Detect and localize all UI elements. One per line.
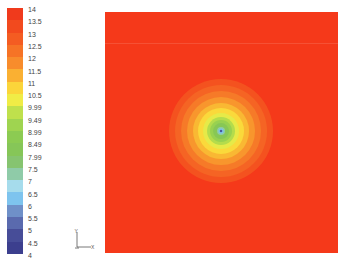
- colorbar-tick-label: 7.99: [28, 154, 42, 162]
- axis-y-label: Y: [75, 228, 79, 234]
- colorbar-tick-label: 6: [28, 203, 32, 211]
- colorbar-swatch: [7, 57, 23, 69]
- colorbar-tick-label: 5.5: [28, 215, 38, 223]
- colorbar-tick-label: 4.5: [28, 240, 38, 248]
- colorbar-swatch: [7, 205, 23, 217]
- colorbar-swatch: [7, 69, 23, 81]
- colorbar-tick-label: 6.5: [28, 191, 38, 199]
- contour-rings: [105, 12, 338, 253]
- colorbar-swatch: [7, 229, 23, 241]
- colorbar-swatch: [7, 180, 23, 192]
- colorbar-swatch: [7, 45, 23, 57]
- colorbar-tick-label: 4: [28, 252, 32, 260]
- colorbar-swatch: [7, 168, 23, 180]
- colorbar-labels: 1413.51312.51211.51110.59.999.498.998.49…: [28, 0, 68, 266]
- axes-triad-icon: Y X: [72, 228, 96, 252]
- colorbar-swatch: [7, 33, 23, 45]
- colorbar-tick-label: 11.5: [28, 68, 41, 76]
- colorbar-swatch: [7, 192, 23, 204]
- colorbar-tick-label: 14: [28, 6, 36, 14]
- colorbar-swatch: [7, 119, 23, 131]
- colorbar-swatch: [7, 94, 23, 106]
- colorbar-tick-label: 11: [28, 80, 35, 88]
- colorbar-swatch: [7, 156, 23, 168]
- colorbar-tick-label: 10.5: [28, 92, 42, 100]
- colorbar-tick-label: 8.49: [28, 141, 42, 149]
- colorbar-tick-label: 7.5: [28, 166, 38, 174]
- colorbar-swatch: [7, 8, 23, 20]
- colorbar-swatch: [7, 143, 23, 155]
- colorbar-swatch: [7, 217, 23, 229]
- colorbar-tick-label: 7: [28, 178, 32, 186]
- colorbar-tick-label: 8.99: [28, 129, 42, 137]
- colorbar-tick-label: 13: [28, 31, 36, 39]
- colorbar-swatch: [7, 82, 23, 94]
- colorbar-tick-label: 5: [28, 227, 32, 235]
- contour-plot: [105, 12, 338, 253]
- colorbar-tick-label: 9.99: [28, 104, 42, 112]
- colorbar-swatch: [7, 106, 23, 118]
- colorbar-tick-label: 9.49: [28, 117, 42, 125]
- colorbar-tick-label: 12: [28, 55, 36, 63]
- axis-x-label: X: [91, 244, 95, 250]
- colorbar-swatch: [7, 131, 23, 143]
- colorbar-tick-label: 13.5: [28, 18, 42, 26]
- colorbar-tick-label: 12.5: [28, 43, 42, 51]
- colorbar-swatch: [7, 242, 23, 254]
- colorbar: [7, 8, 23, 254]
- colorbar-swatch: [7, 20, 23, 32]
- contour-ring: [220, 130, 223, 133]
